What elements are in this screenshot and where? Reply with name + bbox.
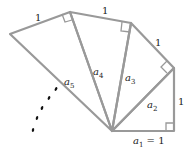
label-a3: a3 xyxy=(125,73,135,86)
label-a5: a5 xyxy=(64,77,74,90)
label-side-1: 1 xyxy=(35,13,41,23)
label-a1: a1 = 1 xyxy=(133,136,165,149)
label-side-2: 1 xyxy=(102,6,108,16)
label-side-3: 1 xyxy=(155,38,161,48)
continuation-dots xyxy=(31,87,58,133)
label-a2: a2 xyxy=(147,100,157,113)
right-angle-markers xyxy=(62,14,174,131)
label-side-4: 1 xyxy=(178,97,184,107)
label-a4: a4 xyxy=(93,67,103,80)
